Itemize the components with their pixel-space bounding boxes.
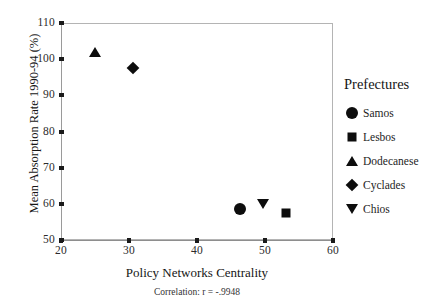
legend-item-label: Lesbos bbox=[363, 131, 396, 144]
x-tick-mark bbox=[331, 238, 335, 243]
x-tick-mark bbox=[127, 238, 131, 243]
y-tick-mark bbox=[59, 93, 64, 97]
plot-area bbox=[61, 23, 333, 240]
x-tick-label: 20 bbox=[41, 244, 81, 256]
y-tick-mark bbox=[59, 21, 64, 25]
legend-item-label: Cyclades bbox=[363, 179, 405, 192]
square-icon bbox=[344, 129, 360, 145]
x-axis-title: Policy Networks Centrality bbox=[61, 266, 333, 280]
legend-item-chios[interactable]: Chios bbox=[344, 197, 438, 221]
x-tick-mark bbox=[263, 238, 267, 243]
x-tick-label: 30 bbox=[109, 244, 149, 256]
data-point-samos bbox=[234, 203, 246, 215]
correlation-annotation: Correlation: r = -.9948 bbox=[61, 287, 333, 298]
circle-icon bbox=[344, 105, 360, 121]
diamond-icon bbox=[344, 177, 360, 193]
x-tick-mark bbox=[59, 238, 63, 243]
x-tick-label: 40 bbox=[177, 244, 217, 256]
y-axis-title: Mean Absorption Rate 1990-94 (%) bbox=[28, 14, 41, 234]
legend-title: Prefectures bbox=[344, 76, 438, 92]
legend-item-dodecanese[interactable]: Dodecanese bbox=[344, 149, 438, 173]
legend-item-lesbos[interactable]: Lesbos bbox=[344, 125, 438, 149]
data-point-lesbos bbox=[282, 208, 291, 217]
x-tick-label: 50 bbox=[245, 244, 285, 256]
legend-item-label: Samos bbox=[363, 107, 394, 120]
y-tick-mark bbox=[59, 57, 64, 61]
y-tick-mark bbox=[59, 166, 64, 170]
scatter-chart-figure: 5060708090100110 2030405060 Mean Absorpt… bbox=[0, 0, 438, 307]
legend-item-label: Chios bbox=[363, 203, 390, 216]
legend: Prefectures SamosLesbosDodecaneseCyclade… bbox=[344, 76, 438, 221]
triangle-down-icon bbox=[344, 201, 360, 217]
legend-item-label: Dodecanese bbox=[363, 155, 419, 168]
y-tick-mark bbox=[59, 202, 64, 206]
data-point-chios bbox=[257, 199, 269, 209]
data-point-dodecanese bbox=[89, 47, 101, 57]
legend-items: SamosLesbosDodecaneseCycladesChios bbox=[344, 101, 438, 221]
y-tick-mark bbox=[59, 130, 64, 134]
triangle-up-icon bbox=[344, 153, 360, 169]
legend-item-samos[interactable]: Samos bbox=[344, 101, 438, 125]
x-tick-mark bbox=[195, 238, 199, 243]
x-tick-label: 60 bbox=[313, 244, 353, 256]
legend-item-cyclades[interactable]: Cyclades bbox=[344, 173, 438, 197]
